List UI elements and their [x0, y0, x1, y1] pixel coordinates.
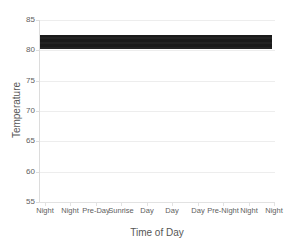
temperature-series-band — [39, 35, 272, 50]
band-texture-stripe — [39, 42, 272, 44]
y-tick-label: 55 — [14, 198, 35, 206]
gridline-80 — [39, 50, 275, 51]
x-tick-label: Night — [252, 206, 288, 215]
y-axis-line — [39, 20, 40, 203]
gridline-65 — [39, 141, 275, 142]
y-tick-label: 85 — [14, 16, 35, 24]
x-axis-line — [39, 202, 275, 203]
x-axis-title: Time of Day — [39, 227, 275, 239]
gridline-60 — [39, 172, 275, 173]
gridline-70 — [39, 111, 275, 112]
band-texture-stripe — [39, 47, 272, 49]
temperature-time-of-day-chart: 85 80 75 70 65 60 55 Night Night Pre-Day… — [0, 0, 288, 249]
plot-area — [39, 20, 275, 202]
gridline-75 — [39, 81, 275, 82]
band-texture-stripe — [39, 37, 272, 39]
y-axis-title: Temperature — [11, 50, 23, 170]
gridline-85 — [39, 20, 275, 21]
